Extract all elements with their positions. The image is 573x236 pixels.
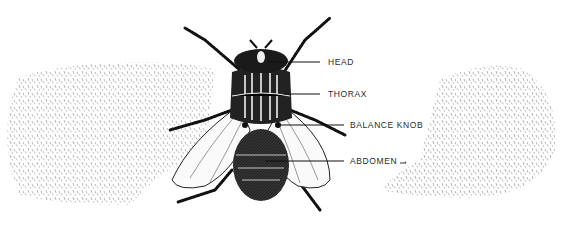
head-shape: [234, 40, 288, 73]
fly-anatomy-diagram: HEAD THORAX BALANCE KNOB ABDOMEN: [0, 0, 573, 236]
label-head: HEAD: [328, 57, 354, 67]
label-balance-knob: BALANCE KNOB: [350, 120, 423, 130]
fly-illustration: [0, 0, 573, 236]
label-thorax: THORAX: [328, 89, 367, 99]
label-abdomen: ABDOMEN: [350, 156, 397, 166]
right-stipple-shading: [380, 66, 556, 198]
